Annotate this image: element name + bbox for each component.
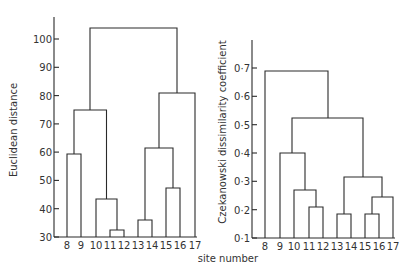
right-y-tick-labels: 0·1 0·2 0·3 0·4 0·5 0·6 0·7 <box>234 63 250 244</box>
svg-text:0·1: 0·1 <box>234 233 250 244</box>
x-axis-title: site number <box>198 253 259 264</box>
svg-text:0·5: 0·5 <box>234 120 250 131</box>
svg-text:0·6: 0·6 <box>234 91 250 102</box>
svg-text:0·7: 0·7 <box>234 63 250 74</box>
svg-text:11: 11 <box>104 240 117 251</box>
svg-text:12: 12 <box>317 241 330 252</box>
svg-text:14: 14 <box>345 241 358 252</box>
dendrogram-figure: 30 40 50 60 70 80 90 100 Euclidean dista… <box>0 0 417 277</box>
svg-text:0·4: 0·4 <box>234 148 250 159</box>
svg-text:70: 70 <box>39 119 52 130</box>
right-dendrogram-branches <box>265 71 393 238</box>
svg-text:0·3: 0·3 <box>234 176 250 187</box>
svg-text:17: 17 <box>189 240 202 251</box>
svg-text:9: 9 <box>277 241 283 252</box>
svg-text:100: 100 <box>33 34 52 45</box>
svg-text:14: 14 <box>146 240 159 251</box>
left-y-ticks <box>54 39 59 237</box>
left-dendrogram-branches <box>67 28 195 237</box>
svg-text:13: 13 <box>331 241 344 252</box>
svg-text:50: 50 <box>39 175 52 186</box>
svg-text:13: 13 <box>132 240 145 251</box>
svg-text:12: 12 <box>118 240 131 251</box>
svg-text:60: 60 <box>39 147 52 158</box>
svg-text:16: 16 <box>174 240 187 251</box>
left-y-tick-labels: 30 40 50 60 70 80 90 100 <box>33 34 52 243</box>
right-y-ticks <box>252 68 257 238</box>
svg-text:30: 30 <box>39 232 52 243</box>
svg-text:10: 10 <box>90 240 103 251</box>
svg-text:80: 80 <box>39 91 52 102</box>
svg-text:90: 90 <box>39 62 52 73</box>
svg-text:11: 11 <box>303 241 316 252</box>
svg-text:40: 40 <box>39 204 52 215</box>
svg-text:15: 15 <box>359 241 372 252</box>
right-y-axis-title: Czekanowski dissimilarity coefficient <box>217 40 228 224</box>
svg-text:16: 16 <box>373 241 386 252</box>
svg-text:15: 15 <box>160 240 173 251</box>
svg-text:17: 17 <box>387 241 400 252</box>
right-dendrogram: 0·1 0·2 0·3 0·4 0·5 0·6 0·7 Czekanowski … <box>217 40 399 252</box>
svg-text:8: 8 <box>262 241 268 252</box>
left-y-axis-title: Euclidean distance <box>8 83 19 177</box>
left-dendrogram: 30 40 50 60 70 80 90 100 Euclidean dista… <box>8 17 201 251</box>
svg-text:9: 9 <box>78 240 84 251</box>
left-leaf-labels: 8 9 10 11 12 13 14 15 16 17 <box>64 240 202 251</box>
svg-text:10: 10 <box>288 241 301 252</box>
right-leaf-labels: 8 9 10 11 12 13 14 15 16 17 <box>262 241 400 252</box>
svg-text:0·2: 0·2 <box>234 205 250 216</box>
svg-text:8: 8 <box>64 240 70 251</box>
